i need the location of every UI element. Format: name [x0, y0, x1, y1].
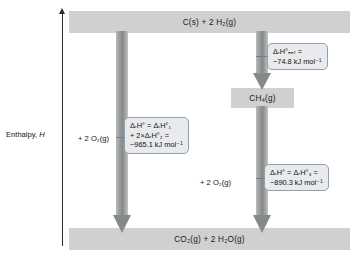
callout-line-2: + 2×ΔᵣH°₂ =: [130, 131, 183, 141]
arrow-head-icon: [113, 215, 131, 233]
species-label-methane: CH₄(g): [249, 94, 275, 103]
arrow-shaft: [256, 106, 268, 216]
callout-line-1: ΔᵣH° = ΔᵣH°₁: [130, 121, 183, 131]
callout-methane-combustion-enthalpy: ΔᵣH° = ΔᵣH°₃ = −890.3 kJ mol⁻¹: [264, 164, 329, 191]
enthalpy-axis-line: [62, 13, 63, 246]
callout-line-3: −965.1 kJ mol⁻¹: [130, 140, 183, 150]
added-reagent-label-left: + 2 O₂(g): [78, 134, 109, 143]
enthalpy-axis-label: Enthalpy, H: [6, 130, 45, 139]
callout-line-1: ΔᵣH° = ΔᵣH°₃ =: [270, 168, 323, 178]
species-bar-reactants: C(s) + 2 H₂(g): [69, 11, 350, 33]
callout-line-1: ΔᵣH°ₙₑₜ =: [273, 47, 322, 57]
arrow-head-icon: [253, 73, 271, 90]
callout-line-2: −890.3 kJ mol⁻¹: [270, 178, 323, 188]
species-label-products: CO₂(g) + 2 H₂O(g): [174, 235, 245, 244]
enthalpy-diagram: Enthalpy, H C(s) + 2 H₂(g) CH₄(g) CO₂(g)…: [0, 0, 358, 265]
callout-combined-combustion-enthalpy: ΔᵣH° = ΔᵣH°₁ + 2×ΔᵣH°₂ = −965.1 kJ mol⁻¹: [124, 117, 189, 154]
callout-line-2: −74.8 kJ mol⁻¹: [273, 57, 322, 67]
species-label-reactants: C(s) + 2 H₂(g): [183, 18, 237, 27]
enthalpy-axis-label-variable: H: [39, 130, 44, 139]
arrow-head-icon: [253, 215, 271, 233]
enthalpy-axis-label-text: Enthalpy,: [6, 130, 37, 139]
callout-formation-enthalpy: ΔᵣH°ₙₑₜ = −74.8 kJ mol⁻¹: [267, 43, 328, 70]
species-bar-products: CO₂(g) + 2 H₂O(g): [69, 228, 350, 250]
enthalpy-axis-arrowhead-icon: [59, 8, 65, 14]
added-reagent-label-right: + 2 O₂(g): [200, 178, 231, 187]
species-bar-methane: CH₄(g): [231, 88, 294, 108]
